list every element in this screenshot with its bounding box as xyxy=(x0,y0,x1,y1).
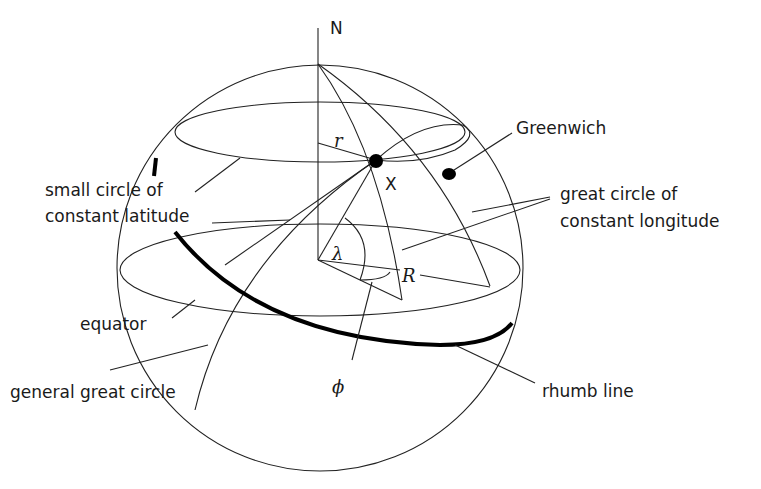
ggc-leader xyxy=(110,345,208,370)
lon-leader2 xyxy=(402,199,550,250)
r-label: r xyxy=(334,130,344,151)
rhumb-tick xyxy=(154,158,156,176)
rhumb-line-path xyxy=(175,232,512,345)
radius-r-line xyxy=(318,143,376,160)
equator-leader xyxy=(172,300,195,318)
north-label: N xyxy=(330,18,343,38)
radius-R-line2 xyxy=(420,275,490,287)
small-circle-leader2 xyxy=(212,220,290,223)
greenwich-leader xyxy=(454,133,512,170)
center-to-x-line xyxy=(318,160,376,260)
small-circle-latitude xyxy=(175,102,465,162)
phi-arc xyxy=(360,272,390,280)
general-great-circle-label: general great circle xyxy=(10,382,176,402)
great-circle-lon-label-1: great circle of xyxy=(560,184,678,204)
greenwich-label: Greenwich xyxy=(516,118,606,138)
meridian-greenwich xyxy=(318,64,490,286)
general-great-circle-arc xyxy=(195,160,376,410)
lambda-label: λ xyxy=(331,243,343,264)
sphere-diagram: N r X λ R ϕ Greenwich small circle of co… xyxy=(0,0,761,489)
equator-label: equator xyxy=(80,314,147,334)
lambda-arc xyxy=(345,218,365,280)
point-x-dot xyxy=(369,154,383,168)
small-circle-label-1: small circle of xyxy=(45,180,164,200)
phi-label: ϕ xyxy=(332,376,344,397)
small-circle-leader xyxy=(195,158,240,192)
R-label: R xyxy=(401,265,416,286)
phi-leader xyxy=(352,282,372,360)
rhumb-leader xyxy=(455,345,535,383)
small-circle-label-2: constant latitude xyxy=(45,206,190,226)
great-circle-lon-label-2: constant longitude xyxy=(560,211,719,231)
radius-R-line xyxy=(318,260,400,270)
x-label: X xyxy=(385,174,397,194)
rhumb-line-label: rhumb line xyxy=(542,381,634,401)
